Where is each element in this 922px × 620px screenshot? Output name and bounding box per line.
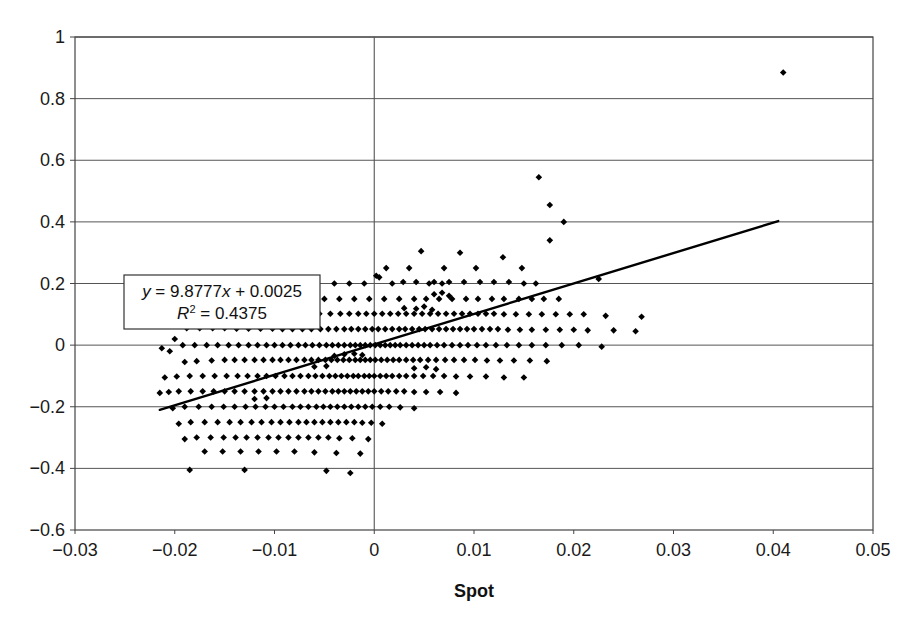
data-point [319, 373, 326, 380]
data-point [423, 364, 430, 371]
data-point [379, 420, 386, 427]
y-tick-labels: −0.6−0.4−0.200.20.40.60.81 [29, 27, 65, 540]
data-point [277, 388, 284, 395]
data-point [275, 434, 282, 441]
data-point [327, 310, 334, 317]
data-point [355, 310, 362, 317]
data-point [158, 345, 165, 352]
data-point [175, 420, 182, 427]
equation-line-1: y = 9.8777x + 0.0025 [141, 282, 302, 301]
x-tick-label: 0.03 [656, 540, 691, 560]
data-point [501, 296, 508, 303]
data-point [433, 357, 440, 364]
data-point [326, 373, 333, 380]
data-point [425, 357, 432, 364]
data-point [529, 342, 536, 349]
data-point [371, 373, 378, 380]
data-point [335, 419, 342, 426]
data-point [312, 373, 319, 380]
data-point [329, 342, 336, 349]
data-point [295, 342, 302, 349]
data-point [235, 342, 242, 349]
data-point [214, 342, 221, 349]
data-point [231, 403, 238, 410]
data-point [420, 373, 427, 380]
data-point [340, 357, 347, 364]
data-point [443, 310, 450, 317]
x-tick-label: −0.01 [252, 540, 298, 560]
data-point [315, 434, 322, 441]
data-point [346, 280, 353, 287]
data-point [263, 342, 270, 349]
data-point [252, 403, 259, 410]
data-point [566, 311, 573, 318]
data-point [397, 342, 404, 349]
data-point [511, 357, 518, 364]
data-point [441, 342, 448, 349]
data-point [181, 359, 188, 366]
data-point [351, 296, 358, 303]
data-point [427, 342, 434, 349]
data-point [193, 358, 200, 365]
data-point [463, 296, 470, 303]
data-point [543, 342, 550, 349]
data-point [519, 265, 526, 272]
data-point [426, 280, 433, 287]
data-point [319, 419, 326, 426]
data-point [286, 419, 293, 426]
data-point [402, 326, 409, 333]
data-point [501, 374, 508, 381]
data-point [449, 342, 456, 349]
data-point [396, 373, 403, 380]
data-point [400, 279, 407, 286]
data-point [181, 436, 188, 443]
data-point [451, 310, 458, 317]
data-point [570, 326, 577, 333]
data-point [475, 296, 482, 303]
data-point [268, 419, 275, 426]
y-tick-label: 0.6 [40, 150, 65, 170]
chart-canvas: −0.03−0.02−0.0100.010.020.030.040.05 −0.… [0, 0, 922, 620]
data-point [497, 357, 504, 364]
data-point [289, 373, 296, 380]
data-point [371, 310, 378, 317]
data-point [161, 374, 168, 381]
data-point [348, 326, 355, 333]
x-tick-label: 0.05 [855, 540, 890, 560]
data-point [580, 311, 587, 318]
data-point [465, 342, 472, 349]
data-point [521, 280, 528, 287]
data-point [390, 357, 397, 364]
data-point [539, 311, 546, 318]
data-point [219, 448, 226, 455]
data-point [285, 357, 292, 364]
data-point [505, 326, 512, 333]
data-point [343, 419, 350, 426]
data-point [193, 434, 200, 441]
data-point [165, 389, 172, 396]
data-point [199, 373, 206, 380]
data-point [411, 389, 418, 396]
data-point [461, 357, 468, 364]
data-point [321, 296, 328, 303]
data-point [403, 357, 410, 364]
data-point [325, 326, 332, 333]
data-point [552, 311, 559, 318]
data-point [474, 342, 481, 349]
data-point [273, 448, 280, 455]
data-point [334, 403, 341, 410]
data-point [547, 202, 554, 209]
data-point [397, 404, 404, 411]
data-point [500, 254, 507, 261]
data-point [234, 373, 241, 380]
y-tick-label: 0.2 [40, 274, 65, 294]
data-point [526, 311, 533, 318]
data-point [544, 358, 551, 365]
data-point [341, 326, 348, 333]
y-tick-label: 0.4 [40, 212, 65, 232]
data-point [251, 388, 258, 395]
data-point [280, 403, 287, 410]
data-point [313, 403, 320, 410]
data-point [441, 265, 448, 272]
data-point [396, 326, 403, 333]
